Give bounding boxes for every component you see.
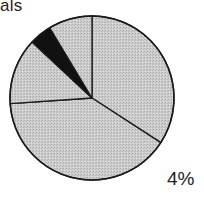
pie-slices bbox=[10, 16, 174, 180]
percent-annotation: 4% bbox=[167, 168, 194, 190]
